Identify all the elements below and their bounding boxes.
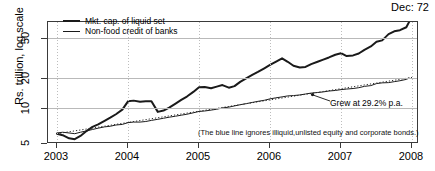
legend-label-nonfood-credit: Non-food credit of banks bbox=[85, 26, 178, 36]
series-layer bbox=[48, 22, 418, 143]
gridline-v-2005 bbox=[199, 22, 200, 142]
legend-item-nonfood-credit: Non-food credit of banks bbox=[63, 26, 178, 36]
x-tick-label-2007: 2007 bbox=[320, 150, 360, 163]
x-tick-mark-2007 bbox=[340, 143, 341, 148]
x-tick-mark-2004 bbox=[127, 143, 128, 148]
chart-container: Dec: 72 Rs. trillion, log scale 50 20 10… bbox=[0, 0, 435, 171]
y-tick-label-50: 50 bbox=[8, 32, 42, 44]
x-tick-mark-2006 bbox=[269, 143, 270, 148]
thin-line-swatch-icon bbox=[63, 31, 80, 32]
thick-line-swatch-icon bbox=[63, 20, 80, 22]
y-tick-mark-5 bbox=[41, 143, 47, 144]
x-tick-label-2008: 2008 bbox=[391, 150, 431, 163]
y-tick-label-20: 20 bbox=[8, 72, 42, 84]
x-tick-label-2006: 2006 bbox=[249, 150, 289, 163]
legend-item-mkt-cap: Mkt. cap. of liquid set bbox=[63, 16, 178, 26]
legend-label-mkt-cap: Mkt. cap. of liquid set bbox=[85, 16, 165, 26]
gridline-v-2004 bbox=[128, 22, 129, 142]
growth-annotation-label: Grew at 29.2% p.a. bbox=[330, 98, 403, 108]
x-tick-mark-2003 bbox=[56, 143, 57, 148]
gridline-h-10 bbox=[48, 108, 417, 109]
plot-area bbox=[47, 21, 418, 143]
x-tick-label-2005: 2005 bbox=[178, 150, 218, 163]
x-tick-label-2004: 2004 bbox=[107, 150, 147, 163]
x-tick-mark-2008 bbox=[411, 143, 412, 148]
y-tick-label-5: 5 bbox=[8, 137, 42, 149]
gridline-v-2003 bbox=[57, 22, 58, 142]
series-line-mkt-cap bbox=[57, 22, 409, 139]
gridline-h-50 bbox=[48, 38, 417, 39]
gridline-h-20 bbox=[48, 78, 417, 79]
y-tick-label-10: 10 bbox=[8, 102, 42, 114]
x-tick-label-2003: 2003 bbox=[36, 150, 76, 163]
footnote-annotation-label: (The blue line ignores illiquid,unlisted… bbox=[198, 128, 419, 137]
chart-title: Dec: 72 bbox=[391, 1, 429, 13]
x-tick-mark-2005 bbox=[198, 143, 199, 148]
gridline-v-2007 bbox=[341, 22, 342, 142]
gridline-v-2008 bbox=[412, 22, 413, 142]
gridline-v-2006 bbox=[270, 22, 271, 142]
chart-legend: Mkt. cap. of liquid set Non-food credit … bbox=[63, 16, 178, 36]
